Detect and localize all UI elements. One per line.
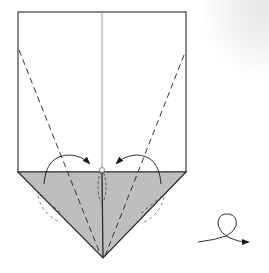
center-pivot-mark xyxy=(100,168,105,173)
turn-over-icon xyxy=(198,214,248,242)
origami-diagram xyxy=(0,0,269,273)
